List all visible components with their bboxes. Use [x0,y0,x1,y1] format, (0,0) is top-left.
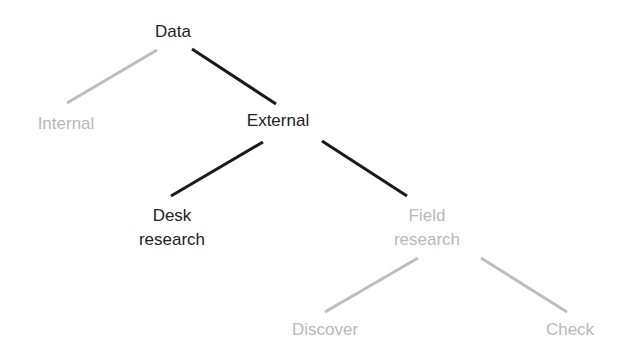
node-label-line1: Desk [139,204,205,228]
node-data: Data [155,20,191,44]
edge-external-field [322,141,407,196]
node-internal: Internal [38,112,95,136]
node-label-line1: Field [394,204,460,228]
node-discover: Discover [292,318,358,342]
edge-field-discover [325,258,418,312]
edge-external-desk [171,142,263,196]
edge-data-internal [67,50,157,103]
tree-edges [0,0,631,355]
node-external: External [247,109,309,133]
node-field-research: Field research [394,204,460,252]
node-label-line2: research [394,228,460,252]
edge-data-external [192,49,276,104]
node-label: External [247,109,309,133]
node-label: Check [546,318,594,342]
node-label: Discover [292,318,358,342]
node-desk-research: Desk research [139,204,205,252]
node-check: Check [546,318,594,342]
edge-field-check [481,258,567,312]
node-label: Internal [38,112,95,136]
node-label: Data [155,20,191,44]
node-label-line2: research [139,228,205,252]
